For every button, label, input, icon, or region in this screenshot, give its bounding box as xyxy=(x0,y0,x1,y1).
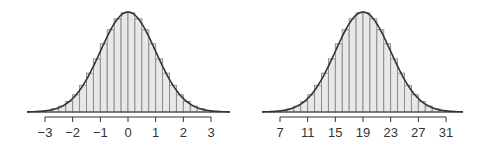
histogram-bar xyxy=(342,30,349,112)
x-tick-label: 19 xyxy=(356,125,370,140)
x-tick-label: 7 xyxy=(276,125,283,140)
x-tick-label: −1 xyxy=(93,125,108,140)
x-axis: −3−2−10123 xyxy=(38,117,215,140)
histogram-bar xyxy=(356,13,363,112)
right-chart-svg: 7111519232731 xyxy=(246,0,493,150)
x-tick-label: 27 xyxy=(411,125,425,140)
histogram-bar xyxy=(135,19,142,112)
histogram-bar xyxy=(349,19,356,112)
histogram-bar xyxy=(128,13,135,112)
histogram-bar xyxy=(370,19,377,112)
histogram-bar xyxy=(156,59,163,112)
histogram-bar xyxy=(100,44,107,112)
x-tick-label: −3 xyxy=(38,125,53,140)
left-chart-svg: −3−2−10123 xyxy=(0,0,246,150)
histogram-bars xyxy=(38,13,218,112)
x-tick-label: 3 xyxy=(207,125,214,140)
x-tick-label: 31 xyxy=(439,125,453,140)
histogram-bar xyxy=(142,30,149,112)
histogram-bar xyxy=(114,19,121,112)
x-tick-label: 23 xyxy=(383,125,397,140)
x-tick-label: 15 xyxy=(328,125,342,140)
left-histogram-chart: −3−2−10123 xyxy=(0,0,246,150)
histogram-bars xyxy=(273,13,453,112)
right-histogram-chart: 7111519232731 xyxy=(246,0,493,150)
histogram-bar xyxy=(107,30,114,112)
x-tick-label: 0 xyxy=(124,125,131,140)
histogram-bar xyxy=(384,44,391,112)
histogram-bar xyxy=(149,44,156,112)
histogram-bar xyxy=(363,13,370,112)
histogram-bar xyxy=(93,59,100,112)
histogram-bar xyxy=(391,59,398,112)
x-axis: 7111519232731 xyxy=(276,117,453,140)
histogram-bar xyxy=(377,30,384,112)
x-tick-label: 1 xyxy=(152,125,159,140)
histogram-bar xyxy=(335,44,342,112)
x-tick-label: −2 xyxy=(65,125,80,140)
histogram-bar xyxy=(328,59,335,112)
x-tick-label: 2 xyxy=(180,125,187,140)
histogram-bar xyxy=(121,13,128,112)
x-tick-label: 11 xyxy=(301,125,315,140)
